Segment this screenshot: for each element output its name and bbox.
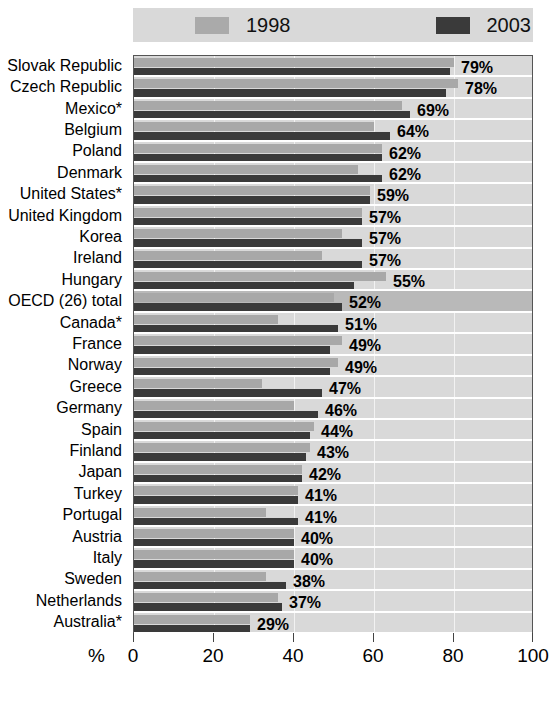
legend-swatch-2003-icon [436,17,470,34]
bar-1998 [134,165,358,174]
bar-1998 [134,422,314,431]
category-label: Austria [72,529,122,545]
legend-label-1998: 1998 [246,14,291,37]
bar-chart: 1998 2003 Slovak RepublicCzech RepublicM… [0,0,553,701]
bar-value-label: 29% [257,616,289,634]
bar-1998 [134,572,266,581]
legend-item-2003: 2003 [436,14,532,37]
category-label: Hungary [62,272,122,288]
bar-value-label: 44% [321,423,353,441]
bar-1998 [134,229,342,238]
axis-tick-label: 100 [517,645,549,667]
bar-1998 [134,358,338,367]
category-label: Japan [78,464,122,480]
axis-tick [133,633,134,642]
category-label: United States* [20,186,122,202]
bar-1998 [134,186,370,195]
category-label: Czech Republic [10,79,122,95]
bar-value-label: 59% [377,187,409,205]
chart-row: 44% [134,420,532,441]
bar-1998 [134,122,374,131]
category-label: Sweden [64,571,122,587]
chart-row: 57% [134,206,532,227]
category-label: Netherlands [36,593,122,609]
bar-value-label: 41% [305,487,337,505]
chart-row: 47% [134,377,532,398]
category-label: Portugal [62,507,122,523]
bar-1998 [134,79,458,88]
bar-value-label: 37% [289,594,321,612]
bar-value-label: 64% [397,123,429,141]
chart-row: 49% [134,356,532,377]
chart-row: 57% [134,227,532,248]
bar-1998 [134,293,334,302]
chart-row: 69% [134,99,532,120]
bar-value-label: 43% [317,444,349,462]
axis-tick [532,633,533,642]
axis-tick-label: 60 [362,645,383,667]
bar-value-label: 55% [393,273,425,291]
bar-1998 [134,208,362,217]
category-axis-labels: Slovak RepublicCzech RepublicMexico*Belg… [0,55,128,633]
axis-tick-label: 40 [282,645,303,667]
category-label: Poland [72,143,122,159]
category-label: Spain [81,422,122,438]
chart-row: 55% [134,270,532,291]
axis-tick [213,633,214,642]
chart-legend: 1998 2003 [133,8,533,42]
chart-row: 51% [134,313,532,334]
bar-value-label: 40% [301,530,333,548]
bar-value-label: 47% [329,380,361,398]
category-label: Greece [70,379,122,395]
plot-area: 79%78%69%64%62%62%59%57%57%57%55%52%51%4… [133,55,533,633]
bar-value-label: 49% [349,337,381,355]
bar-1998 [134,508,266,517]
chart-row: 59% [134,184,532,205]
chart-row: 40% [134,527,532,548]
chart-row: 38% [134,570,532,591]
bar-value-label: 57% [369,230,401,248]
chart-row: 29% [134,613,532,634]
chart-row: 64% [134,120,532,141]
bar-value-label: 49% [345,359,377,377]
bar-value-label: 62% [389,166,421,184]
category-label: Belgium [64,122,122,138]
chart-row: 41% [134,484,532,505]
chart-row: 42% [134,463,532,484]
bar-1998 [134,593,278,602]
category-label: Norway [68,357,122,373]
bar-1998 [134,272,386,281]
category-label: OECD (26) total [8,293,122,309]
category-label: Germany [56,400,122,416]
category-label: Turkey [74,486,122,502]
bar-1998 [134,550,294,559]
bar-1998 [134,465,302,474]
bar-value-label: 51% [345,316,377,334]
bar-1998 [134,336,342,345]
chart-row: 79% [134,56,532,77]
category-label: Slovak Republic [7,58,122,74]
bar-value-label: 38% [293,573,325,591]
category-label: Ireland [73,250,122,266]
axis-tick [293,633,294,642]
bar-value-label: 78% [465,80,497,98]
bar-1998 [134,101,402,110]
category-label: Denmark [57,165,122,181]
chart-row: 43% [134,441,532,462]
chart-row: 78% [134,77,532,98]
bar-value-label: 46% [325,402,357,420]
bar-1998 [134,443,310,452]
category-label: Canada* [60,315,122,331]
bar-1998 [134,144,382,153]
axis-tick-label: 0 [128,645,139,667]
bar-1998 [134,486,298,495]
chart-row: 37% [134,591,532,612]
chart-row: 52% [134,291,532,312]
bar-value-label: 41% [305,509,337,527]
chart-row: 57% [134,249,532,270]
bar-1998 [134,379,262,388]
legend-swatch-1998-icon [195,17,229,34]
chart-row: 40% [134,548,532,569]
axis-tick-label: 20 [202,645,223,667]
category-label: Finland [70,443,122,459]
